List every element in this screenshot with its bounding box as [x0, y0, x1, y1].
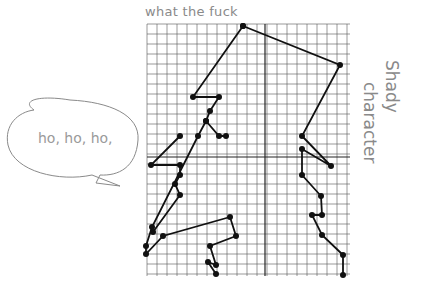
side-caption-line-1: Shady	[382, 60, 402, 113]
figure-lines	[146, 26, 343, 275]
side-caption-line-2: character	[360, 82, 380, 163]
axes	[147, 24, 350, 276]
handwritten-title: what the fuck	[145, 4, 238, 19]
speech-bubble-text: ho, ho, ho,	[38, 130, 113, 146]
grid	[147, 24, 350, 276]
